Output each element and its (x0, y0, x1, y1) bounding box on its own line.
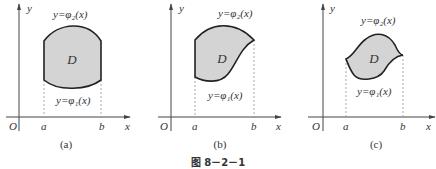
figure-caption: 图 8－2－1 (0, 154, 436, 169)
upper-curve-label: y=φ₂(x) (217, 7, 253, 20)
x-axis-label: x (275, 120, 281, 132)
sublabel-a: (a) (60, 138, 73, 151)
y-axis-label: y (329, 2, 335, 14)
tick-a-label: a (343, 120, 349, 132)
lower-curve-label: y=φ₁(x) (55, 94, 91, 107)
origin-label: O (312, 120, 320, 132)
origin-label: O (9, 120, 17, 132)
y-axis-label: y (178, 2, 184, 14)
tick-b-label: b (99, 120, 105, 132)
sublabel-c: (c) (370, 138, 383, 151)
x-axis-label: x (124, 120, 130, 132)
region-label: D (66, 52, 77, 67)
panel-b: D y=φ₂(x) y=φ₁(x) y x O a b (b) (158, 2, 281, 151)
y-axis-label: y (26, 2, 32, 14)
panel-a: D y=φ₂(x) y=φ₁(x) y x O a b (a) (6, 2, 130, 151)
sublabel-b: (b) (214, 138, 227, 151)
tick-a-label: a (192, 120, 198, 132)
panel-c: D y=φ₂(x) y=φ₁(x) y x O a b (c) (308, 2, 435, 151)
upper-curve-label: y=φ₂(x) (52, 8, 88, 21)
region-label: D (216, 51, 227, 66)
x-axis-label: x (425, 120, 431, 132)
tick-a-label: a (41, 120, 47, 132)
tick-b-label: b (251, 120, 257, 132)
lower-curve-label: y=φ₁(x) (207, 89, 243, 102)
origin-label: O (160, 120, 168, 132)
lower-curve-label: y=φ₁(x) (356, 85, 392, 98)
figure-8-2-1: D y=φ₂(x) y=φ₁(x) y x O a b (a) D y=φ₂(x… (0, 0, 436, 169)
upper-curve-label: y=φ₂(x) (360, 14, 396, 27)
tick-b-label: b (400, 120, 406, 132)
region-label: D (368, 51, 379, 66)
